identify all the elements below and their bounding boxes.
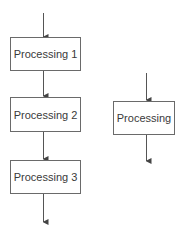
process-box-1: Processing 1 [10, 37, 81, 71]
process-box-single: Processing [113, 101, 175, 135]
process-box-single-label: Processing [117, 112, 171, 124]
process-box-2: Processing 2 [10, 97, 81, 132]
process-box-3-label: Processing 3 [14, 171, 78, 183]
process-box-3: Processing 3 [10, 160, 81, 194]
process-box-1-label: Processing 1 [14, 48, 78, 60]
process-box-2-label: Processing 2 [14, 109, 78, 121]
